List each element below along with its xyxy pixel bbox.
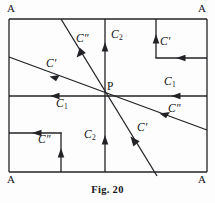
curve-label-cpp-inset-bottom-left: C″	[38, 134, 50, 146]
arrowhead-c2-lower-icon	[102, 135, 109, 145]
figure-drawing	[0, 0, 215, 203]
inset-path-bottom-left	[9, 132, 62, 172]
arrowhead-inset-bl-vertical-icon	[58, 148, 65, 158]
curve-label-cpp-lower-right: C″	[168, 103, 180, 115]
arrowhead-inset-tr-horizontal-icon	[176, 55, 186, 62]
curve-label-cpp-upper-left: C″	[76, 33, 88, 45]
point-label-p: P	[107, 81, 113, 93]
figure-container: A A A A P C2 C2 C1 C1 C″ C′ C′ C″ C″ C′ …	[0, 0, 215, 203]
arrowhead-c2-upper-icon	[102, 42, 109, 52]
curve-label-c2-lower: C2	[84, 129, 95, 141]
shallow-diagonal-line	[9, 57, 207, 130]
curve-label-cp-lower: C′	[137, 122, 147, 134]
curve-label-cp-inset-top-right: C′	[160, 36, 170, 48]
arrowhead-c1-right-icon	[171, 93, 181, 100]
curve-label-c1-left: C1	[56, 98, 67, 110]
figure-caption: Fig. 20	[0, 184, 215, 195]
arrowhead-cpp-upper-icon	[77, 48, 86, 58]
curve-label-c2-upper: C2	[111, 29, 122, 41]
curve-label-cp-left: C′	[46, 58, 56, 70]
curve-label-c1-right: C1	[164, 76, 175, 88]
arrowhead-inset-tr-vertical-icon	[153, 34, 160, 44]
corner-label-top-left: A	[7, 3, 15, 14]
corner-label-top-right: A	[198, 3, 206, 14]
arrowhead-cp-left-icon	[50, 75, 60, 81]
